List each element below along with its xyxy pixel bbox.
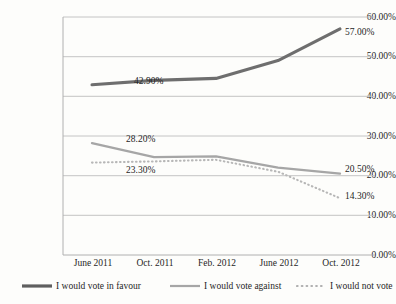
data-label-notvote-2012-10: 14.30% — [345, 191, 374, 201]
data-label-favour-2011-10: 42.90% — [134, 76, 163, 86]
legend-label-i-would-vote-against: I would vote against — [204, 281, 281, 291]
legend-item-i-would-vote-against[interactable]: I would vote against — [170, 278, 281, 294]
legend-label-i-would-vote-in-favour: I would vote in favour — [56, 281, 141, 291]
gridlines — [63, 17, 375, 255]
legend-item-i-would-vote-in-favour[interactable]: I would vote in favour — [22, 278, 141, 294]
data-label-against-2011-10: 28.20% — [126, 134, 155, 144]
legend-item-i-would-not-vote[interactable]: I would not vote — [296, 278, 393, 294]
x-tick-label-june-2012: June 2012 — [248, 258, 310, 269]
line-chart: 60.00% 50.00% 40.00% 30.00% 20.00% 10.00… — [0, 0, 396, 304]
x-tick-label-june-2011: June 2011 — [62, 258, 124, 269]
chart-legend: I would vote in favour I would vote agai… — [0, 278, 396, 300]
line-solid-icon — [170, 281, 200, 291]
legend-label-i-would-not-vote: I would not vote — [330, 281, 393, 291]
line-dotted-icon — [296, 281, 326, 291]
x-tick-label-oct-2011: Oct. 2011 — [124, 258, 186, 269]
data-label-against-2012-10: 20.50% — [345, 164, 374, 174]
data-label-notvote-2011-10: 23.30% — [126, 165, 155, 175]
x-tick-label-oct-2012: Oct. 2012 — [310, 258, 372, 269]
data-label-favour-2012-10: 57.00% — [345, 27, 374, 37]
line-solid-thick-icon — [22, 281, 52, 291]
x-tick-label-feb-2012: Feb. 2012 — [186, 258, 248, 269]
